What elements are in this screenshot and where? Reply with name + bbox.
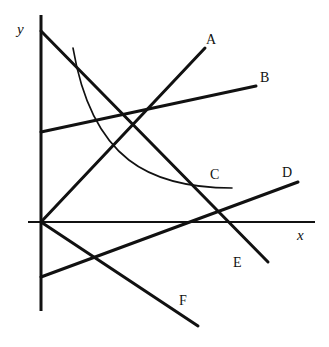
series-line-D xyxy=(41,182,298,277)
graph-figure: y x A B C D E F xyxy=(0,0,329,347)
series-line-E xyxy=(41,31,268,262)
series-line-F xyxy=(41,222,198,326)
series-line-A xyxy=(41,48,205,222)
series-line-B xyxy=(41,86,256,132)
y-axis-label: y xyxy=(17,22,24,37)
series-label-A: A xyxy=(206,33,216,47)
series-curve-C xyxy=(73,48,232,188)
series-label-B: B xyxy=(260,71,269,85)
x-axis-label: x xyxy=(297,228,304,243)
series-label-F: F xyxy=(179,294,187,308)
series-label-E: E xyxy=(233,256,242,270)
series-label-D: D xyxy=(282,166,292,180)
graph-canvas xyxy=(0,0,329,347)
series-label-C: C xyxy=(210,168,219,182)
